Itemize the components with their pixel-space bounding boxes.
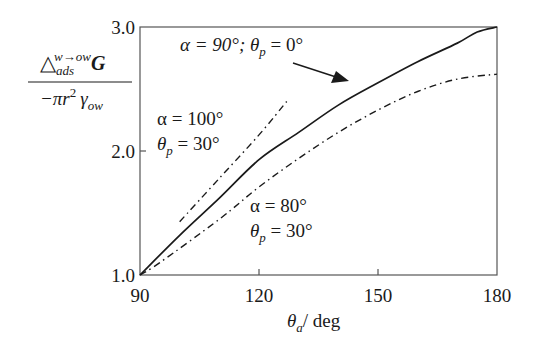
- annotation-alpha100-line1: α = 100°: [157, 108, 223, 129]
- x-tick-label: 120: [245, 285, 274, 306]
- annotation-alpha80-line2: θp = 30°: [250, 220, 313, 245]
- annotation-alpha90: α = 90°; θp = 0°: [180, 34, 303, 59]
- chart: 901201501801.02.03.0 α = 90°; θp = 0° α …: [0, 0, 535, 349]
- y-axis-label: △adsw→owG −πr2γow: [28, 49, 132, 113]
- annotation-arrow: [293, 63, 349, 83]
- axis-tick-labels: 901201501801.02.03.0: [111, 17, 511, 306]
- y-label-denominator: −πr2γow: [40, 85, 103, 113]
- y-tick-label: 1.0: [111, 265, 135, 286]
- x-axis-label: θa/ deg: [287, 310, 341, 335]
- y-tick-label: 3.0: [111, 17, 135, 38]
- y-label-numerator: △adsw→owG: [40, 49, 106, 78]
- series-line-2: [140, 74, 497, 275]
- y-tick-label: 2.0: [111, 141, 135, 162]
- annotation-alpha100-line2: θp = 30°: [157, 133, 220, 158]
- x-tick-label: 90: [131, 285, 150, 306]
- x-tick-label: 150: [364, 285, 393, 306]
- x-tick-label: 180: [483, 285, 512, 306]
- annotation-alpha80-line1: α = 80°: [250, 195, 307, 216]
